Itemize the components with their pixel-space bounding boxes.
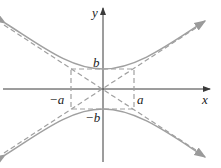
b-label: b [93,56,100,69]
neg-b-label: −b [85,111,100,124]
neg-a-label: −a [49,93,64,106]
hyperbola-diagram [0,0,221,168]
x-axis-label: x [202,93,208,106]
y-axis-label: y [92,6,98,19]
a-label: a [137,93,144,106]
